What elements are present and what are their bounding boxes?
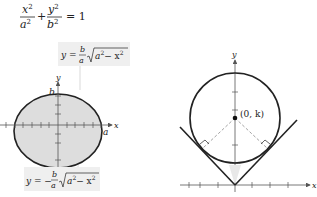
left-tangent-line — [180, 127, 235, 185]
svg-text:a2− x2: a2− x2 — [67, 174, 96, 186]
x-term-denominator: a2 — [20, 18, 31, 31]
lower-curve-label: y = − — [25, 176, 52, 186]
b-label: b — [49, 87, 55, 97]
svg-text:b: b — [80, 45, 85, 54]
ellipse-equation: x2 a2 + y2 b2 = 1 — [20, 3, 86, 31]
center-label: (0, k) — [240, 109, 264, 119]
a-label: a — [103, 127, 108, 137]
y-term-numerator: y2 — [47, 3, 59, 16]
x-term-numerator: x2 — [22, 3, 33, 16]
equals-one: = 1 — [66, 10, 86, 23]
svg-text:a: a — [79, 56, 84, 65]
y-term-denominator: b2 — [47, 18, 59, 31]
center-point — [233, 116, 238, 121]
ellipse-figure: y = b a a2− x2 x y b a y = − b a a2− — [0, 42, 130, 191]
diagram-canvas: x2 a2 + y2 b2 = 1 y = b a a2− x2 — [0, 0, 317, 197]
x-axis-label: x — [312, 181, 317, 190]
circle-tangent-figure: (0, k) x y — [180, 50, 317, 192]
svg-text:b: b — [52, 170, 57, 179]
svg-text:a: a — [51, 181, 56, 190]
upper-curve-label: y = — [60, 50, 77, 60]
y-axis-label: y — [231, 50, 237, 59]
right-tangent-line — [235, 120, 297, 185]
right-radius — [235, 118, 267, 148]
plus-sign: + — [37, 10, 46, 23]
y-axis-label: y — [55, 73, 61, 82]
left-radius — [203, 118, 235, 148]
x-axis-label: x — [114, 121, 119, 130]
svg-text:a2− x2: a2− x2 — [95, 49, 124, 61]
